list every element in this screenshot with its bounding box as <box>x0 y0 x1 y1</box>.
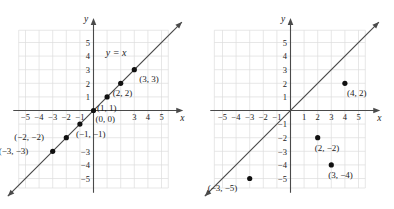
data-points: (4, 2)(2, −2)(3, −4)(−3, −5) <box>208 81 367 193</box>
x-tick-3: 3 <box>132 112 136 122</box>
right-graph-panel: xy−5−4−3−2−11234554321−1−2−3−4−5(4, 2)(2… <box>197 0 394 209</box>
y-tick-1: 1 <box>86 92 90 102</box>
x-tick-5: 5 <box>159 112 163 122</box>
data-point <box>342 81 347 86</box>
y-tick--4: −4 <box>278 160 288 170</box>
x-tick-4: 4 <box>146 112 151 122</box>
y-tick--3: −3 <box>278 147 287 157</box>
y-tick--5: −5 <box>278 174 287 184</box>
data-point <box>132 67 137 72</box>
y-tick--1: −1 <box>278 119 287 129</box>
x-tick--1: −1 <box>75 112 84 122</box>
point-label: (2, 2) <box>113 88 133 98</box>
data-point <box>50 149 55 154</box>
y-tick-2: 2 <box>283 79 287 89</box>
y-tick--2: −2 <box>278 133 287 143</box>
right-coordinate-plane: xy−5−4−3−2−11234554321−1−2−3−4−5(4, 2)(2… <box>197 0 394 209</box>
x-tick-3: 3 <box>329 112 333 122</box>
point-label: (−3, −5) <box>208 183 238 193</box>
y-tick-3: 3 <box>86 65 90 75</box>
y-tick--5: −5 <box>81 174 90 184</box>
point-label: (3, −4) <box>328 170 353 180</box>
data-point <box>91 108 96 113</box>
data-point <box>64 135 69 140</box>
point-label: (4, 2) <box>347 88 367 98</box>
x-tick--2: −2 <box>62 112 71 122</box>
y-tick--4: −4 <box>81 160 91 170</box>
data-point <box>77 122 82 127</box>
point-label: (1, 1) <box>97 103 117 113</box>
y-tick--3: −3 <box>81 147 90 157</box>
left-coordinate-plane: xy−5−4−3−2−134554321−3−4−5y = x(3, 3)(2,… <box>0 0 197 209</box>
x-tick--4: −4 <box>35 112 45 122</box>
point-label: (−3, −3) <box>0 146 28 156</box>
y-axis-label: y <box>280 14 286 24</box>
data-point <box>105 94 110 99</box>
x-axis-label: x <box>179 113 185 123</box>
point-label: (−2, −2) <box>14 132 44 142</box>
data-point <box>315 135 320 140</box>
point-label: (3, 3) <box>139 74 159 84</box>
y-tick-5: 5 <box>283 38 287 48</box>
x-tick-4: 4 <box>343 112 348 122</box>
x-tick--4: −4 <box>232 112 242 122</box>
left-graph-panel: xy−5−4−3−2−134554321−3−4−5y = x(3, 3)(2,… <box>0 0 197 209</box>
y-tick-3: 3 <box>283 65 287 75</box>
x-tick--2: −2 <box>259 112 268 122</box>
data-point <box>118 81 123 86</box>
y-tick-2: 2 <box>86 79 90 89</box>
point-label: (−1, −1) <box>76 129 106 139</box>
point-label: (0, 0) <box>96 114 116 124</box>
x-tick--3: −3 <box>48 112 57 122</box>
x-tick-2: 2 <box>316 112 320 122</box>
y-axis-arrow <box>91 18 97 25</box>
y-axis-label: y <box>83 14 89 24</box>
equation-label: y = x <box>105 47 127 58</box>
y-axis-arrow <box>288 18 294 25</box>
data-point <box>329 162 334 167</box>
x-tick-5: 5 <box>356 112 360 122</box>
x-axis-label: x <box>376 113 382 123</box>
x-tick-1: 1 <box>302 112 306 122</box>
x-tick--5: −5 <box>21 112 30 122</box>
data-point <box>247 176 252 181</box>
y-tick-5: 5 <box>86 38 90 48</box>
x-tick--3: −3 <box>245 112 254 122</box>
y-tick-1: 1 <box>283 92 287 102</box>
point-label: (2, −2) <box>315 143 340 153</box>
x-tick--5: −5 <box>218 112 227 122</box>
